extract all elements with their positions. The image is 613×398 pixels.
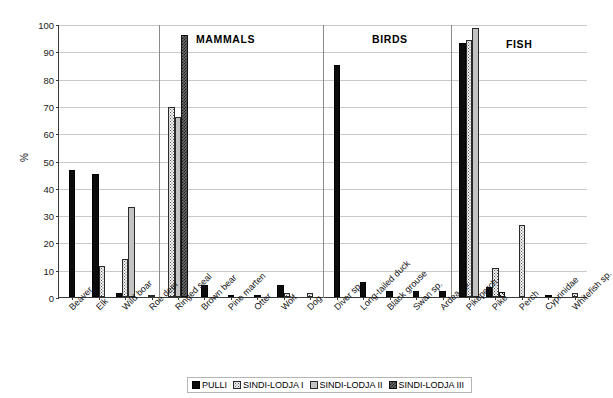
section-divider <box>323 25 324 298</box>
x-axis-tick-mark <box>125 297 126 300</box>
x-axis-tick-mark <box>548 297 549 300</box>
x-axis-tick-mark <box>204 297 205 300</box>
section-label: FISH <box>506 38 532 50</box>
y-axis-tick-label: 10 <box>26 265 54 276</box>
x-axis-tick-mark <box>152 297 153 300</box>
x-axis-tick-mark <box>390 297 391 300</box>
legend-label: SINDI-LODJA III <box>399 380 465 390</box>
legend-item: PULLI <box>192 380 227 390</box>
y-axis-tick-mark <box>56 162 59 163</box>
bar <box>181 35 187 297</box>
bar <box>128 207 134 297</box>
y-axis-tick-label: 30 <box>26 211 54 222</box>
bar <box>99 266 105 297</box>
y-axis-tick-label: 90 <box>26 47 54 58</box>
y-axis-tick-mark <box>56 271 59 272</box>
legend-swatch-icon <box>389 381 397 389</box>
section-divider <box>159 25 160 298</box>
legend-item: SINDI-LODJA II <box>310 380 383 390</box>
section-divider <box>451 25 452 298</box>
y-axis-tick-label: 80 <box>26 74 54 85</box>
bar <box>472 28 478 297</box>
x-axis-tick-mark <box>495 297 496 300</box>
bar <box>519 225 525 297</box>
x-axis-tick-mark <box>443 297 444 300</box>
chart-legend: PULLISINDI-LODJA ISINDI-LODJA IISINDI-LO… <box>187 377 472 393</box>
y-axis-tick-mark <box>56 189 59 190</box>
x-axis-tick-mark <box>310 297 311 300</box>
x-axis-tick-mark <box>363 297 364 300</box>
x-axis-tick-mark <box>469 297 470 300</box>
y-axis-tick-label: 20 <box>26 238 54 249</box>
y-axis-tick-mark <box>56 80 59 81</box>
y-axis-tick-mark <box>56 134 59 135</box>
legend-item: SINDI-LODJA III <box>389 380 465 390</box>
bar <box>334 65 340 297</box>
x-axis-tick-mark <box>178 297 179 300</box>
legend-swatch-icon <box>310 381 318 389</box>
legend-label: SINDI-LODJA II <box>320 380 383 390</box>
y-axis-tick-mark <box>56 243 59 244</box>
bar <box>499 292 505 297</box>
y-axis-tick-mark <box>56 52 59 53</box>
x-axis-tick-mark <box>284 297 285 300</box>
section-label: MAMMALS <box>196 33 255 45</box>
y-axis-tick-mark <box>56 216 59 217</box>
bar <box>201 285 207 297</box>
legend-label: SINDI-LODJA I <box>243 380 304 390</box>
y-axis-tick-label: 60 <box>26 129 54 140</box>
x-axis-label: Elk <box>94 296 110 312</box>
y-axis-tick-label: 0 <box>26 293 54 304</box>
legend-swatch-icon <box>233 381 241 389</box>
x-axis-tick-mark <box>72 297 73 300</box>
y-axis-tick-label: 100 <box>26 20 54 31</box>
y-axis-tick-mark <box>56 25 59 26</box>
x-axis-tick-mark <box>416 297 417 300</box>
bar <box>69 170 75 297</box>
legend-item: SINDI-LODJA I <box>233 380 304 390</box>
bar <box>360 282 366 297</box>
section-label: BIRDS <box>372 33 408 45</box>
x-axis-tick-mark <box>231 297 232 300</box>
y-axis-tick-mark <box>56 107 59 108</box>
x-axis-tick-mark <box>522 297 523 300</box>
y-axis-tick-label: 50 <box>26 156 54 167</box>
legend-label: PULLI <box>202 380 227 390</box>
x-axis-tick-mark <box>257 297 258 300</box>
y-axis-tick-label: 40 <box>26 183 54 194</box>
y-axis-tick-label: 70 <box>26 101 54 112</box>
x-axis-tick-mark <box>99 297 100 300</box>
plot-area <box>58 25 587 298</box>
y-axis-tick-mark <box>56 298 59 299</box>
x-axis-tick-mark <box>337 297 338 300</box>
legend-swatch-icon <box>192 381 200 389</box>
x-axis-tick-mark <box>575 297 576 300</box>
